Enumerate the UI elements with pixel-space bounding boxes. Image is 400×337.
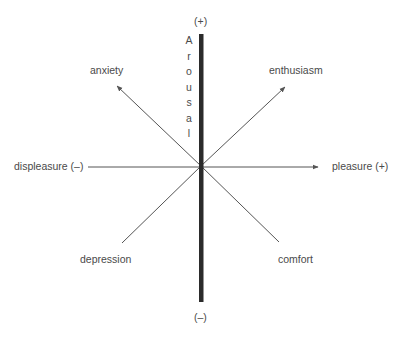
depression-label: depression [80,254,131,265]
arousal-letter: A [185,33,192,49]
pleasure-label: pleasure (+) [332,161,388,172]
arousal-top-label: (+) [194,16,207,27]
enthusiasm-arrow [201,87,285,166]
arousal-letter: o [186,64,192,80]
arousal-bottom-label: (–) [194,312,207,323]
displeasure-label: displeasure (–) [14,161,83,172]
depression-line [122,166,201,243]
enthusiasm-label: enthusiasm [269,65,323,76]
arousal-letter: r [187,49,191,65]
arousal-letter: s [186,95,191,111]
arousal-letter: l [188,126,190,142]
arousal-axis-label: A r o u s a l [184,33,194,142]
arousal-letter: u [186,80,192,96]
arousal-letter: a [186,111,192,127]
arousal-pleasure-diagram: (+) (–) A r o u s a l displeasure (–) pl… [0,0,400,337]
arousal-axis-bar [199,34,204,302]
comfort-label: comfort [278,254,313,265]
comfort-line [201,166,279,242]
anxiety-label: anxiety [90,65,123,76]
